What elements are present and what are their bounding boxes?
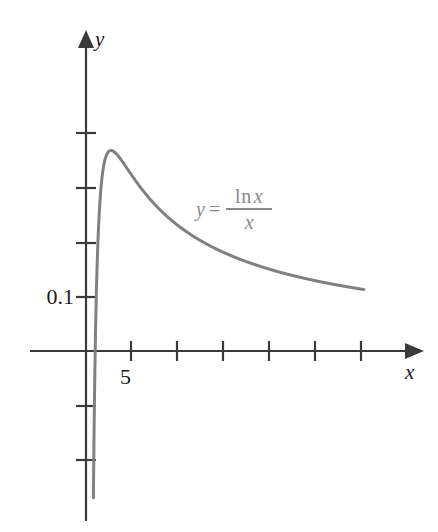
equation-annotation: y = ln x x: [196, 186, 272, 232]
equation-equals-sign: =: [209, 199, 226, 219]
x-tick-label-5: 5: [120, 366, 131, 388]
equation-denominator: x: [245, 210, 254, 232]
figure-canvas: y x 0.1 5 y = ln x x: [0, 0, 438, 532]
plot-svg: [0, 0, 438, 532]
x-axis-group: [30, 341, 424, 361]
equation-lhs: y: [196, 199, 209, 219]
equation-numerator-variable: x: [254, 185, 263, 207]
equation-numerator-function: ln: [235, 185, 252, 207]
y-tick-label-0.1: 0.1: [47, 286, 75, 308]
y-axis-arrowhead: [78, 30, 94, 48]
x-axis-label: x: [405, 362, 414, 383]
equation-numerator: ln x: [232, 186, 266, 208]
equation-fraction: ln x x: [226, 186, 272, 232]
x-axis-arrowhead: [405, 343, 424, 359]
y-axis-label: y: [95, 29, 104, 50]
